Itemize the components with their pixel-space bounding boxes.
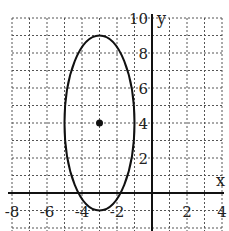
y-tick-label: 8 [138,45,148,63]
x-tick-label: -6 [40,203,55,221]
y-axis-label: y [156,9,166,28]
ellipse-plot: -8-6-4-224246810 x y [0,0,229,231]
x-tick-label: 2 [182,203,192,221]
x-tick-label: 4 [217,203,227,221]
y-tick-label: 10 [129,10,148,28]
y-tick-label: 4 [138,115,148,133]
y-tick-label: 6 [138,80,148,98]
tick-labels: -8-6-4-224246810 [5,10,227,221]
x-axis-label: x [216,171,225,190]
y-tick-label: 2 [138,150,148,168]
x-tick-label: -8 [5,203,20,221]
center-point [96,120,103,127]
